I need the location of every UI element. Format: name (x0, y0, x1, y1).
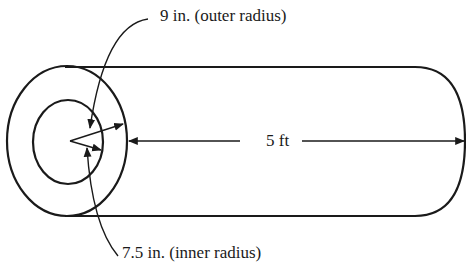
pipe-diagram (0, 0, 466, 266)
inner-radius-arrow (70, 141, 101, 150)
inner-radius-label: 7.5 in. (inner radius) (122, 244, 261, 261)
length-label: 5 ft (266, 132, 289, 149)
outer-radius-arrow (70, 124, 123, 141)
outer-radius-leader (90, 19, 148, 128)
outer-circle (7, 66, 127, 216)
outer-radius-label: 9 in. (outer radius) (160, 7, 287, 24)
